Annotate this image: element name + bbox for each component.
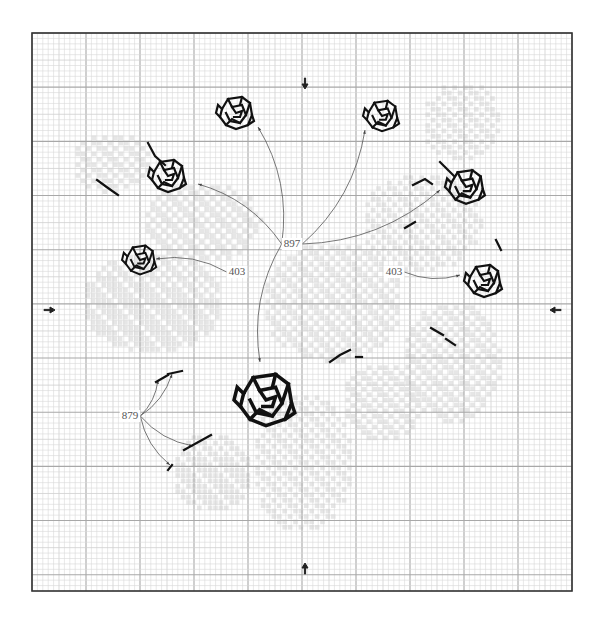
- stitch-grid: [32, 33, 572, 591]
- backstitch-stroke: [496, 240, 501, 250]
- floss-label-403: 403: [229, 265, 246, 277]
- backstitch-stroke: [168, 371, 182, 374]
- rose-upper-right-motif: [445, 170, 485, 204]
- floss-label-403: 403: [386, 265, 403, 277]
- leader-arrowhead: [258, 358, 261, 362]
- cross-stitch-chart: 897403403879: [0, 0, 601, 621]
- floss-label-897: 897: [284, 237, 301, 249]
- leader-line: [404, 272, 460, 279]
- backstitch-stroke: [168, 465, 172, 470]
- center-arrow-right: [550, 307, 561, 313]
- backstitch-stroke: [156, 375, 168, 382]
- floss-label-879: 879: [122, 409, 139, 421]
- leader-line: [258, 127, 284, 244]
